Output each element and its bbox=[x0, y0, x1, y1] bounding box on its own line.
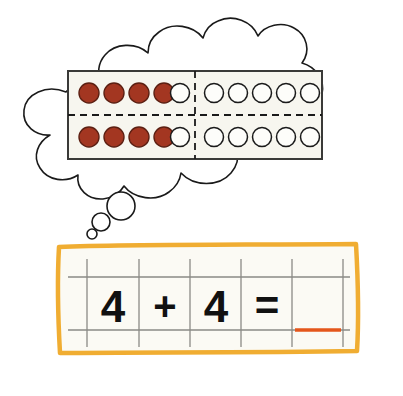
counter-filled bbox=[129, 83, 149, 103]
counter-filled bbox=[129, 127, 149, 147]
counter-filled bbox=[79, 83, 99, 103]
thought-bubble-layer: 4 + 4 = bbox=[0, 0, 403, 396]
counter-empty bbox=[253, 84, 272, 103]
left-ten-frame-bottom-row bbox=[79, 127, 190, 147]
cell-equals: = bbox=[255, 282, 280, 329]
worksheet-illustration: A thought bubble shows a double ten-fram… bbox=[0, 0, 403, 396]
counter-empty bbox=[171, 84, 190, 103]
right-ten-frame-bottom-row bbox=[205, 128, 320, 147]
counter-filled bbox=[79, 127, 99, 147]
counter-empty bbox=[277, 84, 296, 103]
medium-tail-bubble bbox=[92, 213, 110, 231]
cell-addend-one: 4 bbox=[101, 282, 126, 331]
small-tail-bubble bbox=[87, 229, 97, 239]
left-ten-frame-top-row bbox=[79, 83, 190, 103]
counter-empty bbox=[301, 84, 320, 103]
counter-empty bbox=[253, 128, 272, 147]
cell-operator-plus: + bbox=[153, 284, 176, 328]
right-ten-frame-top-row bbox=[205, 84, 320, 103]
counter-filled bbox=[104, 127, 124, 147]
double-ten-frame bbox=[68, 71, 322, 159]
counter-empty bbox=[205, 84, 224, 103]
counter-empty bbox=[229, 84, 248, 103]
counter-empty bbox=[277, 128, 296, 147]
counter-empty bbox=[171, 128, 190, 147]
counter-empty bbox=[205, 128, 224, 147]
counter-filled bbox=[104, 83, 124, 103]
large-tail-bubble bbox=[107, 192, 135, 220]
counter-empty bbox=[301, 128, 320, 147]
counter-empty bbox=[229, 128, 248, 147]
cell-addend-two: 4 bbox=[204, 282, 229, 331]
equation-worksheet: 4 + 4 = bbox=[58, 244, 358, 353]
